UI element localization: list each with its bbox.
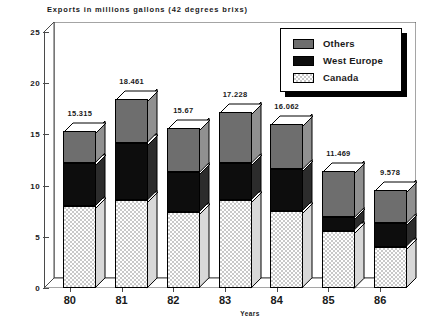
canada-swatch	[293, 73, 314, 83]
x-axis-label: 80	[64, 294, 76, 306]
west-europe-swatch	[293, 56, 314, 66]
others-swatch	[293, 39, 314, 49]
chart-container: Exports in millions gallons (42 degrees …	[0, 0, 434, 329]
bar-segment-others[interactable]	[322, 171, 355, 218]
y-axis-label: 0	[35, 284, 40, 293]
x-axis-label: 82	[167, 294, 179, 306]
x-axis-tick	[380, 288, 381, 292]
bar-segment-we[interactable]	[270, 169, 303, 211]
y-axis-line	[44, 32, 45, 288]
x-axis-label: 81	[115, 294, 127, 306]
bar-value-label: 15.67	[173, 106, 193, 115]
y-axis-tick	[43, 186, 49, 187]
bar-segment-canada[interactable]	[63, 206, 96, 288]
x-axis-label: 85	[322, 294, 334, 306]
bar-segment-others[interactable]	[115, 99, 148, 143]
x-axis-label: 84	[271, 294, 283, 306]
bar-segment-we[interactable]	[322, 217, 355, 230]
y-axis-tick	[43, 32, 49, 33]
bar-segment-canada[interactable]	[219, 200, 252, 288]
legend-item[interactable]: West Europe	[293, 54, 383, 67]
bar-segment-others[interactable]	[270, 124, 303, 170]
legend-item-label: West Europe	[323, 55, 383, 66]
bar-segment-others[interactable]	[63, 131, 96, 163]
x-axis: Years 80818283848586	[44, 288, 416, 328]
bar-column[interactable]: 15.315	[63, 22, 96, 288]
legend-item-label: Canada	[323, 72, 359, 83]
x-axis-label: 83	[219, 294, 231, 306]
x-axis-title: Years	[240, 310, 259, 317]
bar-segment-canada[interactable]	[270, 211, 303, 288]
y-axis-label: 15	[30, 130, 40, 139]
bar-value-label: 9.578	[380, 168, 400, 177]
chart-legend: OthersWest EuropeCanada	[280, 28, 402, 92]
bar-segment-canada[interactable]	[374, 247, 407, 288]
legend-item[interactable]: Canada	[293, 71, 359, 84]
bar-segment-canada[interactable]	[115, 200, 148, 288]
bar-segment-we[interactable]	[374, 223, 407, 247]
bar-column[interactable]: 15.67	[167, 22, 200, 288]
bar-segment-others[interactable]	[219, 112, 252, 163]
bar-value-label: 15.315	[67, 109, 92, 118]
y-axis-label: 5	[35, 232, 40, 241]
y-axis-label: 10	[30, 181, 40, 190]
x-axis-tick	[70, 288, 71, 292]
bar-value-label: 11.469	[326, 149, 350, 158]
bar-column[interactable]: 18.461	[115, 22, 148, 288]
bar-value-label: 18.461	[119, 77, 144, 86]
bar-segment-we[interactable]	[115, 143, 148, 200]
bar-segment-canada[interactable]	[322, 231, 355, 288]
y-axis-tick	[43, 134, 49, 135]
x-axis-tick	[328, 288, 329, 292]
bar-column[interactable]: 17.228	[219, 22, 252, 288]
x-axis-tick	[225, 288, 226, 292]
legend-item[interactable]: Others	[293, 37, 355, 50]
x-axis-label: 86	[374, 294, 386, 306]
y-axis: 0510152025	[44, 22, 45, 288]
y-axis-tick	[43, 237, 49, 238]
y-axis-label: 20	[30, 79, 40, 88]
bar-segment-we[interactable]	[219, 163, 252, 200]
y-axis-label: 25	[30, 28, 40, 37]
x-axis-tick	[122, 288, 123, 292]
legend-item-label: Others	[323, 38, 355, 49]
chart-title: Exports in millions gallons (42 degrees …	[47, 5, 248, 14]
bar-segment-others[interactable]	[374, 190, 407, 224]
bar-segment-canada[interactable]	[167, 212, 200, 288]
bar-segment-we[interactable]	[63, 163, 96, 206]
bar-value-label: 17.228	[223, 90, 248, 99]
bar-value-label: 16.062	[274, 102, 299, 111]
bar-segment-others[interactable]	[167, 128, 200, 173]
x-axis-tick	[173, 288, 174, 292]
bar-segment-we[interactable]	[167, 172, 200, 212]
x-axis-tick	[277, 288, 278, 292]
y-axis-tick	[43, 83, 49, 84]
